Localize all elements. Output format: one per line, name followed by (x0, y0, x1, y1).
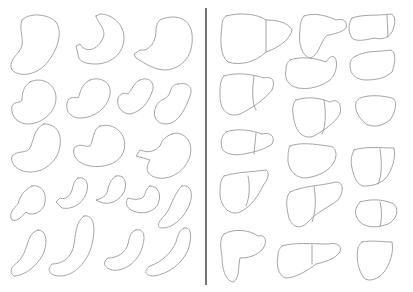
liver-outline (387, 15, 388, 37)
liver-outline (221, 130, 273, 155)
stomach-outline (12, 124, 61, 172)
liver-outline (221, 230, 266, 282)
stomach-outline (11, 230, 46, 276)
stomach-outline (126, 186, 159, 213)
liver-outline (355, 96, 395, 126)
liver-outline (221, 14, 292, 64)
liver-outline (254, 133, 256, 154)
liver-outline (378, 149, 381, 184)
stomach-outline (105, 230, 144, 271)
liver-outline (312, 186, 315, 222)
liver-outline (350, 50, 395, 80)
liver-outline (357, 241, 392, 280)
liver-outline (351, 148, 394, 187)
liver-outline (356, 200, 397, 227)
outline-sketch-sheet (0, 0, 413, 292)
liver-outline (277, 243, 340, 278)
liver-outline (220, 74, 274, 115)
stomach-outline (74, 125, 125, 166)
stomach-outline (11, 15, 59, 74)
liver-outline (286, 56, 337, 88)
stomach-outline (118, 79, 153, 114)
stomach-outline (136, 133, 191, 178)
liver-panel (220, 14, 397, 282)
stomach-outline (76, 14, 124, 64)
stomach-outline (158, 186, 191, 228)
stomach-outline (96, 176, 126, 204)
liver-outline (288, 144, 336, 178)
liver-outline (246, 176, 249, 206)
stomach-outline (49, 216, 94, 276)
stomach-outline (134, 17, 192, 70)
liver-outline (299, 14, 346, 58)
stomach-outline (11, 186, 46, 221)
liver-outline (380, 202, 382, 226)
liver-outline (293, 98, 341, 137)
stomach-panel (11, 14, 193, 276)
stomach-outline (56, 178, 88, 209)
stomach-outline (67, 79, 110, 118)
liver-outline (220, 170, 268, 213)
stomach-outline (12, 80, 56, 124)
stomach-outline (154, 84, 191, 125)
stomach-outline (146, 228, 191, 276)
